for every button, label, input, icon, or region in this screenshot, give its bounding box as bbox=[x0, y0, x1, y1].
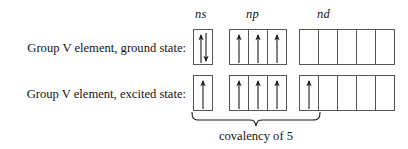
orbital-box bbox=[248, 29, 268, 65]
orbital-box bbox=[267, 75, 287, 111]
electron-arrow-up-icon bbox=[255, 79, 264, 109]
electron-arrow-up-icon bbox=[306, 79, 315, 109]
electron-arrow-up-icon bbox=[236, 79, 245, 109]
orbital-box bbox=[375, 29, 395, 65]
orbital-box bbox=[229, 29, 249, 65]
orbital-box bbox=[356, 29, 376, 65]
orbital-box bbox=[248, 75, 268, 111]
covalency-caption: covalency of 5 bbox=[191, 130, 321, 143]
electron-arrow-up-icon bbox=[274, 79, 283, 109]
orbital-box bbox=[318, 29, 338, 65]
orbital-group-np-ground bbox=[229, 29, 287, 65]
orbital-box bbox=[337, 29, 357, 65]
orbital-header-np: np bbox=[246, 8, 259, 21]
orbital-box bbox=[356, 75, 376, 111]
electron-arrow-down-icon bbox=[203, 33, 212, 63]
orbital-header-ns: ns bbox=[195, 8, 207, 21]
orbital-box bbox=[299, 75, 319, 111]
orbital-group-ns-excited bbox=[193, 75, 213, 111]
orbital-box bbox=[193, 29, 213, 65]
orbital-box bbox=[229, 75, 249, 111]
row-caption-ground-state: Group V element, ground state: bbox=[8, 42, 186, 55]
orbital-box bbox=[299, 29, 319, 65]
orbital-header-nd: nd bbox=[317, 8, 330, 21]
covalency-brace bbox=[191, 112, 321, 127]
orbital-box bbox=[193, 75, 213, 111]
electron-arrow-up-icon bbox=[236, 33, 245, 63]
electron-arrow-up-icon bbox=[274, 33, 283, 63]
orbital-group-np-excited bbox=[229, 75, 287, 111]
orbital-box bbox=[267, 29, 287, 65]
orbital-box bbox=[337, 75, 357, 111]
orbital-box bbox=[375, 75, 395, 111]
orbital-group-nd-excited bbox=[299, 75, 395, 111]
row-caption-excited-state: Group V element, excited state: bbox=[8, 88, 186, 101]
orbital-diagram-figure: ns np nd Group V element, ground state: bbox=[0, 0, 408, 149]
orbital-box bbox=[318, 75, 338, 111]
electron-arrow-up-icon bbox=[200, 79, 209, 109]
orbital-group-ns-ground bbox=[193, 29, 213, 65]
electron-arrow-up-icon bbox=[255, 33, 264, 63]
orbital-group-nd-ground bbox=[299, 29, 395, 65]
